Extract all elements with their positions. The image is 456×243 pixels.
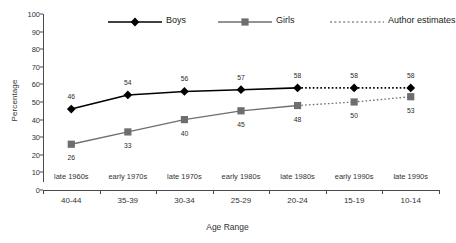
x-axis-category-label: 10-14: [400, 196, 420, 205]
legend-label: Author estimates: [388, 15, 456, 25]
data-point-marker-diamond: [237, 85, 246, 94]
data-point-value-label: 54: [124, 78, 132, 85]
chart-legend: BoysGirlsAuthor estimates: [0, 16, 455, 34]
series-segment: [71, 95, 128, 109]
data-point-value-label: 58: [407, 71, 415, 78]
data-point-marker-diamond: [180, 87, 189, 96]
x-axis-tick-mark: [439, 190, 440, 194]
data-point-value-label: 58: [350, 71, 358, 78]
x-axis-tick-mark: [43, 190, 44, 194]
data-point-marker-square: [237, 107, 244, 114]
series-segment: [241, 106, 298, 111]
x-axis-category-label: 40-44: [61, 196, 81, 205]
x-axis-period-label: late 1980s: [280, 172, 315, 181]
series-segment: [71, 132, 128, 144]
x-axis-period-label: early 1990s: [335, 172, 374, 181]
data-point-value-label: 46: [68, 93, 76, 100]
x-axis-tick-mark: [326, 190, 327, 194]
data-point-marker-square: [241, 18, 248, 25]
series-segment: [241, 88, 298, 90]
series-segment: [128, 91, 185, 95]
data-point-value-label: 48: [294, 115, 302, 122]
data-point-value-label: 33: [124, 141, 132, 148]
x-axis-period-label: late 1960s: [54, 172, 89, 181]
data-point-value-label: 45: [237, 120, 245, 127]
data-point-value-label: 58: [294, 71, 302, 78]
x-axis-tick-mark: [100, 190, 101, 194]
x-axis-tick-mark: [156, 190, 157, 194]
legend-label: Boys: [166, 15, 186, 25]
data-point-marker-square: [68, 141, 75, 148]
x-axis-period-label: late 1970s: [167, 172, 202, 181]
data-point-marker-square: [351, 98, 358, 105]
series-segment: [128, 120, 185, 132]
legend-swatch-icon: [218, 16, 272, 28]
series-segment: [184, 111, 241, 120]
data-point-value-label: 53: [407, 106, 415, 113]
data-point-marker-diamond: [123, 91, 132, 100]
x-axis-period-label: early 1980s: [222, 172, 261, 181]
data-point-marker-square: [181, 116, 188, 123]
data-point-marker-diamond: [293, 84, 302, 93]
data-point-marker-diamond: [350, 84, 359, 93]
data-point-value-label: 57: [237, 73, 245, 80]
series-segment: [184, 90, 241, 92]
data-point-value-label: 26: [68, 154, 76, 161]
x-axis-category-label: 35-39: [118, 196, 138, 205]
data-point-value-label: 50: [350, 112, 358, 119]
x-axis-category-label: 20-24: [287, 196, 307, 205]
x-axis-tick-mark: [269, 190, 270, 194]
x-axis-category-label: 25-29: [231, 196, 251, 205]
legend-swatch-icon: [330, 16, 384, 28]
data-point-value-label: 40: [181, 129, 189, 136]
data-point-marker-diamond: [67, 105, 76, 114]
series-segment-estimate: [354, 97, 411, 102]
legend-swatch-icon: [108, 16, 162, 28]
x-axis-category-label: 15-19: [344, 196, 364, 205]
series-segment-estimate: [298, 102, 355, 106]
data-point-marker-square: [407, 93, 414, 100]
data-point-value-label: 56: [181, 75, 189, 82]
x-axis-period-label: early 1970s: [108, 172, 147, 181]
x-axis-tick-mark: [213, 190, 214, 194]
legend-label: Girls: [276, 15, 295, 25]
x-axis-category-label: 30-34: [174, 196, 194, 205]
x-axis-tick-mark: [382, 190, 383, 194]
data-point-marker-diamond: [406, 84, 415, 93]
data-point-marker-square: [124, 128, 131, 135]
data-point-marker-diamond: [131, 18, 140, 27]
data-point-marker-square: [294, 102, 301, 109]
x-axis-period-label: late 1990s: [393, 172, 428, 181]
